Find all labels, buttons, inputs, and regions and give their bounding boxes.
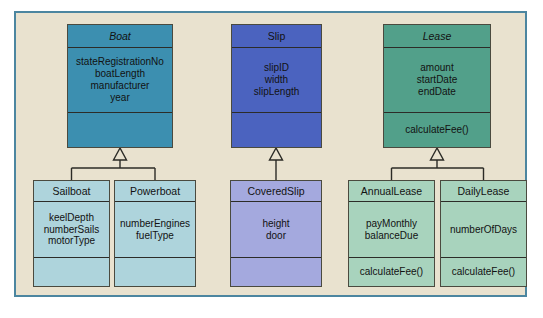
class-box-coveredslip[interactable]: CoveredSlip height door — [230, 180, 322, 287]
attribute: fuelType — [136, 230, 174, 242]
class-attributes-coveredslip: height door — [231, 202, 321, 258]
class-box-sailboat[interactable]: Sailboat keelDepth numberSails motorType — [33, 180, 110, 287]
attribute: slipLength — [254, 86, 300, 98]
class-name-slip: Slip — [232, 25, 321, 48]
attribute: numberEngines — [120, 218, 190, 230]
attribute: door — [266, 230, 286, 242]
generalization-triangle-lease — [431, 148, 444, 160]
generalization-slip — [270, 148, 283, 180]
class-attributes-slip: slipID width slipLength — [232, 48, 321, 113]
class-box-annuallease[interactable]: AnnualLease payMonthly balanceDue calcul… — [348, 180, 435, 287]
class-name-annuallease: AnnualLease — [349, 181, 434, 202]
class-operations-slip — [232, 113, 321, 147]
class-attributes-lease: amount startDate endDate — [384, 48, 490, 113]
attribute: startDate — [417, 74, 458, 86]
class-attributes-dailylease: numberOfDays — [441, 202, 526, 258]
class-attributes-sailboat: keelDepth numberSails motorType — [34, 202, 109, 258]
generalization-lease — [392, 148, 484, 180]
class-attributes-annuallease: payMonthly balanceDue — [349, 202, 434, 258]
generalization-triangle-boat — [114, 148, 127, 160]
class-attributes-powerboat: numberEngines fuelType — [115, 202, 195, 258]
class-box-boat[interactable]: Boat stateRegistrationNo boatLength manu… — [67, 24, 173, 148]
attribute: manufacturer — [91, 80, 150, 92]
generalization-triangle-slip — [270, 148, 283, 160]
class-name-lease: Lease — [384, 25, 490, 48]
operation: calculateFee() — [360, 266, 423, 278]
class-operations-coveredslip — [231, 258, 321, 286]
class-operations-powerboat — [115, 258, 195, 286]
operation: calculateFee() — [452, 266, 515, 278]
attribute: numberOfDays — [450, 224, 517, 236]
diagram-canvas: Boat stateRegistrationNo boatLength manu… — [0, 0, 543, 318]
class-box-dailylease[interactable]: DailyLease numberOfDays calculateFee() — [440, 180, 527, 287]
attribute: numberSails — [44, 224, 100, 236]
attribute: height — [262, 218, 289, 230]
class-operations-annuallease: calculateFee() — [349, 258, 434, 286]
attribute: balanceDue — [365, 230, 418, 242]
class-name-coveredslip: CoveredSlip — [231, 181, 321, 202]
attribute: width — [265, 74, 288, 86]
attribute: stateRegistrationNo — [76, 56, 164, 68]
attribute: year — [110, 92, 129, 104]
uml-class-diagram: Boat stateRegistrationNo boatLength manu… — [0, 0, 543, 318]
class-box-lease[interactable]: Lease amount startDate endDate calculate… — [383, 24, 491, 148]
attribute: endDate — [418, 86, 456, 98]
class-operations-dailylease: calculateFee() — [441, 258, 526, 286]
attribute: slipID — [264, 62, 289, 74]
class-name-powerboat: Powerboat — [115, 181, 195, 202]
class-operations-boat — [68, 113, 172, 147]
class-name-boat: Boat — [68, 25, 172, 48]
class-box-slip[interactable]: Slip slipID width slipLength — [231, 24, 322, 148]
attribute: motorType — [48, 235, 95, 247]
class-operations-lease: calculateFee() — [384, 113, 490, 147]
attribute: keelDepth — [49, 212, 94, 224]
attribute: payMonthly — [366, 218, 417, 230]
class-box-powerboat[interactable]: Powerboat numberEngines fuelType — [114, 180, 196, 287]
attribute: boatLength — [95, 68, 145, 80]
class-name-sailboat: Sailboat — [34, 181, 109, 202]
attribute: amount — [420, 62, 453, 74]
operation: calculateFee() — [405, 124, 468, 136]
generalization-boat — [72, 148, 156, 180]
class-attributes-boat: stateRegistrationNo boatLength manufactu… — [68, 48, 172, 113]
class-name-dailylease: DailyLease — [441, 181, 526, 202]
class-operations-sailboat — [34, 258, 109, 286]
